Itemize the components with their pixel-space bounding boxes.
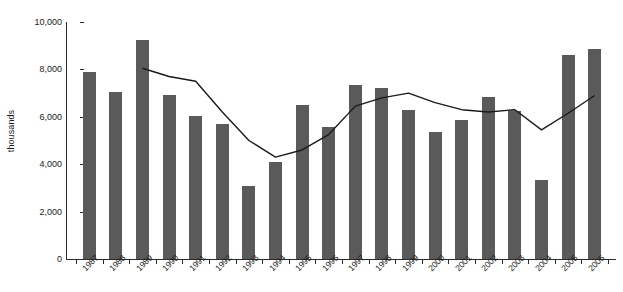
- y-axis-labels: 02,0004,0006,0008,00010,000: [18, 0, 62, 292]
- x-axis-tick-mark: [342, 260, 343, 264]
- x-axis-tick-mark: [448, 260, 449, 264]
- bar: [535, 180, 548, 259]
- bar: [562, 55, 575, 259]
- x-axis-tick-mark: [395, 260, 396, 264]
- bar: [375, 88, 388, 259]
- bar: [242, 186, 255, 259]
- plot-area: 1987198819891990199119921993199419951996…: [66, 0, 616, 292]
- bar: [322, 127, 335, 259]
- y-axis-tick-label: 8,000: [39, 64, 62, 74]
- x-axis-tick-mark: [76, 260, 77, 264]
- x-axis-tick-mark: [182, 260, 183, 264]
- bar: [109, 92, 122, 259]
- x-axis-tick-mark: [422, 260, 423, 264]
- bar: [189, 116, 202, 259]
- x-axis-tick-mark: [209, 260, 210, 264]
- x-axis-tick-mark: [236, 260, 237, 264]
- x-axis-tick-mark: [129, 260, 130, 264]
- bar: [83, 72, 96, 259]
- y-axis-tick-label: 2,000: [39, 207, 62, 217]
- y-axis-tick-label: 6,000: [39, 112, 62, 122]
- x-axis-tick-mark: [315, 260, 316, 264]
- bar: [216, 124, 229, 259]
- bar: [296, 105, 309, 259]
- x-axis-tick-mark: [103, 260, 104, 264]
- y-axis-tick-label: 0: [57, 254, 62, 264]
- bar: [455, 120, 468, 259]
- line-series-path: [143, 68, 595, 157]
- x-axis-tick-mark: [369, 260, 370, 264]
- bar: [508, 111, 521, 259]
- y-axis-tick-label: 10,000: [34, 17, 62, 27]
- bar: [482, 97, 495, 259]
- y-axis-tick-label: 4,000: [39, 159, 62, 169]
- x-axis-tick-mark: [555, 260, 556, 264]
- x-axis-tick-mark: [475, 260, 476, 264]
- y-axis-line: [66, 22, 67, 260]
- x-axis-tick-mark: [528, 260, 529, 264]
- x-axis-tick-mark: [502, 260, 503, 264]
- chart-container: thousands 02,0004,0006,0008,00010,000 19…: [0, 0, 623, 292]
- bar: [163, 95, 176, 259]
- x-axis-tick-mark: [156, 260, 157, 264]
- bar: [588, 49, 601, 259]
- x-axis-tick-mark: [289, 260, 290, 264]
- bar: [429, 132, 442, 259]
- bar: [349, 85, 362, 259]
- x-axis-tick-mark: [608, 260, 609, 264]
- bar: [402, 110, 415, 259]
- bar: [136, 40, 149, 259]
- x-axis-tick-mark: [581, 260, 582, 264]
- bar: [269, 162, 282, 259]
- y-axis-title-label: thousands: [6, 110, 16, 152]
- x-axis-tick-mark: [262, 260, 263, 264]
